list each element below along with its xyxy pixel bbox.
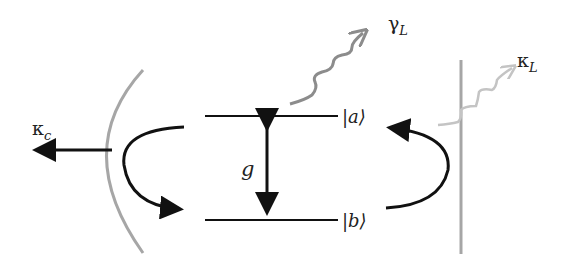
state-a-label: |a⟩ xyxy=(342,106,366,128)
kappa-c-label: κc xyxy=(32,117,52,143)
left-circulation-arrow xyxy=(124,127,184,209)
gamma-l-wavy-arrow xyxy=(290,33,363,104)
right-circulation-arrow xyxy=(386,128,448,208)
cavity-qed-diagram: κc γL κL g |a⟩ |b⟩ xyxy=(0,0,561,272)
gamma-l-label: γL xyxy=(388,12,408,38)
kappa-l-label: κL xyxy=(517,49,538,75)
state-b-label: |b⟩ xyxy=(342,210,367,232)
coupling-g-label: g xyxy=(241,157,254,181)
kappa-l-wavy-arrow xyxy=(438,68,512,125)
